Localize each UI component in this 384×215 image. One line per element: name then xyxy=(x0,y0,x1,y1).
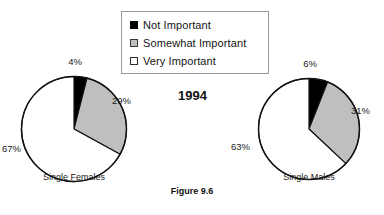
legend-item-not-important: Not Important xyxy=(130,16,268,34)
pie-chart-single-females xyxy=(20,75,128,183)
pie-left-pct-somewhat-important: 29% xyxy=(112,95,142,106)
legend-item-very-important: Very Important xyxy=(130,52,268,70)
pie-right-pct-very-important: 63% xyxy=(231,141,261,152)
pie-right-pct-not-important: 6% xyxy=(290,58,330,69)
legend-item-label: Somewhat Important xyxy=(143,37,246,49)
pie-left-pct-very-important: 67% xyxy=(2,143,32,154)
legend-item-label: Not Important xyxy=(143,19,211,31)
legend-item-somewhat-important: Somewhat Important xyxy=(130,34,268,52)
legend-item-label: Very Important xyxy=(143,55,216,67)
white-square-icon xyxy=(130,57,138,65)
legend: Not Important Somewhat Important Very Im… xyxy=(121,11,269,74)
black-square-icon xyxy=(130,21,138,29)
gray-square-icon xyxy=(130,39,138,47)
pie-right-pct-somewhat-important: 31% xyxy=(351,105,381,116)
pie-right-caption: Single Males xyxy=(268,172,350,182)
year-label: 1994 xyxy=(155,88,230,103)
figure-number-caption: Figure 9.6 xyxy=(142,186,242,196)
pie-left-pct-not-important: 4% xyxy=(55,56,95,67)
figure-container: Importance of Religion Not Important Som… xyxy=(0,0,384,215)
pie-left-caption: Single Females xyxy=(28,172,120,182)
pie-chart-single-males xyxy=(257,77,361,181)
